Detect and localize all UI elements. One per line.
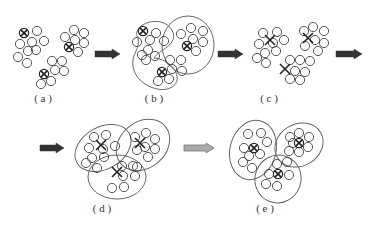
panel-label-b: ( b ) <box>134 92 174 104</box>
panel-d <box>67 109 180 199</box>
data-point <box>239 143 248 152</box>
data-point <box>303 142 312 151</box>
centroid-circled-x-icon <box>157 67 166 76</box>
data-point <box>143 152 152 161</box>
data-point <box>198 26 207 35</box>
panel-label-c: ( c ) <box>249 92 289 104</box>
data-point <box>57 56 66 65</box>
data-point <box>99 152 108 161</box>
data-point <box>159 36 168 45</box>
panel-c <box>252 22 328 84</box>
panel-a <box>13 25 88 88</box>
data-point <box>101 130 110 139</box>
centroid-circled-x-icon <box>138 26 147 35</box>
data-point <box>290 66 299 75</box>
data-point <box>73 47 82 56</box>
data-point <box>150 51 159 60</box>
data-point <box>308 22 317 31</box>
data-point <box>47 56 56 65</box>
data-point <box>300 67 309 76</box>
data-point <box>295 75 304 84</box>
data-point <box>165 55 174 64</box>
data-point <box>319 38 328 47</box>
data-point <box>167 64 176 73</box>
panel-label-d: ( d ) <box>82 202 122 214</box>
centroid-x-icon <box>280 64 290 74</box>
data-point <box>130 171 139 180</box>
data-point <box>150 134 159 143</box>
data-point <box>60 32 69 41</box>
data-point <box>118 171 127 180</box>
data-point <box>294 147 303 156</box>
data-point <box>313 46 322 55</box>
centroid-circled-x-icon <box>182 41 191 50</box>
data-point <box>150 144 159 153</box>
data-point <box>310 35 319 44</box>
data-point <box>176 55 185 64</box>
data-point <box>300 41 309 50</box>
panel-label-e: ( e ) <box>245 202 285 214</box>
data-point <box>294 128 303 137</box>
data-point <box>243 129 252 138</box>
data-point <box>153 76 162 85</box>
data-point <box>304 132 313 141</box>
data-point <box>15 39 24 48</box>
data-point <box>247 163 256 172</box>
centroid-circled-x-icon <box>64 42 73 51</box>
data-point <box>39 36 48 45</box>
data-point <box>295 55 304 64</box>
centroid-circled-x-icon <box>249 143 258 152</box>
data-point <box>285 74 294 83</box>
data-point <box>69 25 78 34</box>
data-point <box>272 181 281 190</box>
data-point <box>177 66 186 75</box>
centroid-circled-x-icon <box>294 138 303 147</box>
data-point <box>279 35 288 44</box>
data-point <box>284 170 293 179</box>
data-point <box>132 162 141 171</box>
data-point <box>92 163 101 172</box>
data-point <box>84 143 93 152</box>
data-point <box>198 37 207 46</box>
data-point <box>272 159 281 168</box>
arrow-icon-b-to-c <box>218 49 243 59</box>
data-point <box>191 46 200 55</box>
data-point <box>110 141 119 150</box>
data-point <box>264 169 273 178</box>
data-point <box>59 66 68 75</box>
panel-b <box>132 16 214 90</box>
data-point <box>46 76 55 85</box>
data-point <box>186 23 195 32</box>
data-point <box>285 55 294 64</box>
arrow-icon-d-to-e <box>184 143 214 153</box>
data-point <box>305 56 314 65</box>
data-point <box>262 137 271 146</box>
data-point <box>36 79 45 88</box>
arrow-icon-into-d <box>40 143 64 153</box>
data-point <box>261 58 270 67</box>
data-point <box>261 179 270 188</box>
data-point <box>145 35 154 44</box>
data-point <box>50 65 59 74</box>
data-point <box>13 52 22 61</box>
data-point <box>132 37 141 46</box>
centroid-circled-x-icon <box>39 69 48 78</box>
data-point <box>119 182 128 191</box>
data-point <box>22 58 31 67</box>
data-point <box>81 158 90 167</box>
data-point <box>260 48 269 57</box>
data-point <box>176 29 185 38</box>
data-point <box>79 38 88 47</box>
data-point <box>141 128 150 137</box>
data-point <box>79 28 88 37</box>
kmeans-diagram <box>0 0 378 231</box>
centroid-circled-x-icon <box>273 169 282 178</box>
panel-label-a: ( a ) <box>23 92 63 104</box>
data-point <box>238 157 247 166</box>
data-point <box>282 157 291 166</box>
data-point <box>252 53 261 62</box>
arrow-icon-a-to-b <box>95 49 120 59</box>
data-point <box>319 26 328 35</box>
data-point <box>254 39 263 48</box>
panel-e <box>223 114 331 209</box>
